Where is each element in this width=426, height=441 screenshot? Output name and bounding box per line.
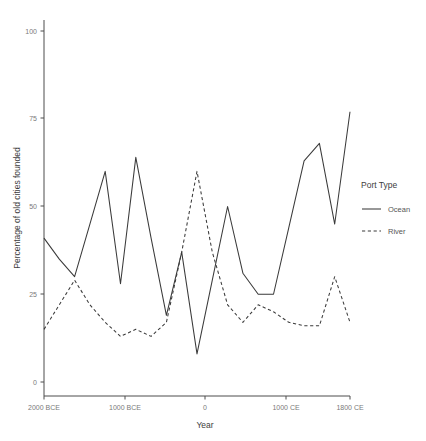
x-axis-tick-labels: 2000 BCE 1000 BCE 0 1000 CE 1800 CE bbox=[28, 404, 364, 411]
y-tick-label-100: 100 bbox=[25, 28, 37, 35]
legend-item-river[interactable]: River bbox=[362, 227, 406, 236]
y-tick-label-50: 50 bbox=[29, 203, 37, 210]
y-tick-label-25: 25 bbox=[29, 291, 37, 298]
y-axis-title: Percentage of old cities founded bbox=[12, 147, 22, 269]
legend: Port Type Ocean River bbox=[361, 180, 410, 236]
chart-container: 0 25 50 75 100 2000 BCE 1000 BCE 0 1000 … bbox=[0, 0, 426, 441]
y-tick-label-75: 75 bbox=[29, 115, 37, 122]
x-axis-ticks bbox=[44, 396, 350, 400]
series-line-river bbox=[44, 171, 350, 336]
x-tick-label-1000ce: 1000 CE bbox=[272, 404, 300, 411]
y-tick-label-0: 0 bbox=[33, 379, 37, 386]
chart-svg: 0 25 50 75 100 2000 BCE 1000 BCE 0 1000 … bbox=[0, 0, 426, 441]
x-axis-title: Year bbox=[196, 420, 213, 430]
legend-label-ocean: Ocean bbox=[388, 205, 410, 214]
x-tick-label-2000bce: 2000 BCE bbox=[28, 404, 60, 411]
legend-item-ocean[interactable]: Ocean bbox=[362, 205, 410, 214]
x-tick-label-1000bce: 1000 BCE bbox=[109, 404, 141, 411]
y-axis-ticks bbox=[41, 31, 45, 382]
x-tick-label-1800ce: 1800 CE bbox=[336, 404, 364, 411]
legend-label-river: River bbox=[388, 227, 406, 236]
y-axis-tick-labels: 0 25 50 75 100 bbox=[25, 28, 37, 386]
series-line-ocean bbox=[44, 112, 350, 354]
x-tick-label-0: 0 bbox=[203, 404, 207, 411]
legend-title: Port Type bbox=[361, 180, 397, 190]
